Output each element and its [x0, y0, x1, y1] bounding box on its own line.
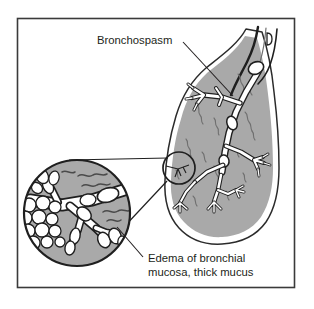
bronchospasm-label: Bronchospasm	[97, 34, 172, 46]
asthma-illustration: Bronchospasm Edema of bronchial mucosa, …	[0, 0, 314, 309]
edema-label-line2: mucosa, thick mucus	[148, 266, 254, 278]
edema-label-line1: Edema of bronchial	[148, 252, 245, 264]
illustration-container: Bronchospasm Edema of bronchial mucosa, …	[0, 0, 314, 309]
